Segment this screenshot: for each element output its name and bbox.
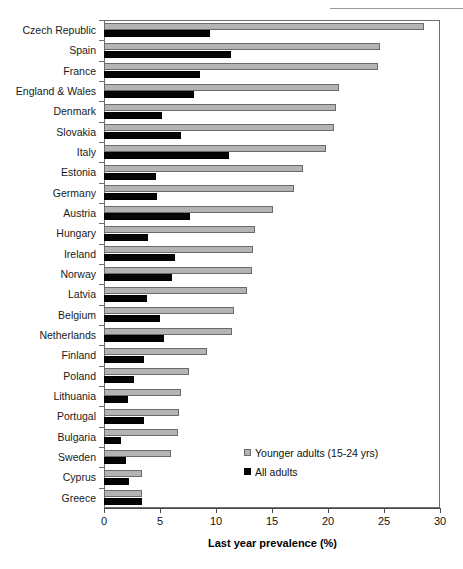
bar-all-adults (104, 234, 148, 241)
x-tick (216, 508, 217, 513)
bar-all-adults (104, 335, 164, 342)
legend-label-all-adults: All adults (255, 466, 298, 478)
bar-younger-adults (104, 429, 178, 436)
chart-page: Czech RepublicSpainFranceEngland & Wales… (0, 0, 463, 569)
bar-all-adults (104, 173, 156, 180)
x-tick-label: 20 (308, 515, 348, 527)
bar-all-adults (104, 254, 175, 261)
bar-all-adults (104, 193, 157, 200)
bar-younger-adults (104, 348, 207, 355)
bar-all-adults (104, 132, 181, 139)
bar-younger-adults (104, 63, 378, 70)
bar-row: Denmark (0, 101, 463, 121)
category-tick (99, 305, 104, 306)
bar-all-adults (104, 30, 210, 37)
category-tick (99, 325, 104, 326)
category-tick (99, 183, 104, 184)
bar-all-adults (104, 396, 128, 403)
bar-all-adults (104, 498, 142, 505)
category-tick (99, 447, 104, 448)
bar-row: France (0, 61, 463, 81)
x-tick-label: 15 (252, 515, 292, 527)
category-tick (99, 223, 104, 224)
bar-all-adults (104, 478, 129, 485)
category-label: Poland (63, 370, 96, 381)
bar-younger-adults (104, 185, 294, 192)
bar-all-adults (104, 91, 194, 98)
bar-row: Estonia (0, 162, 463, 182)
category-tick (99, 386, 104, 387)
bar-younger-adults (104, 226, 255, 233)
category-label: Norway (60, 269, 96, 280)
category-tick (99, 61, 104, 62)
category-label: Latvia (68, 289, 96, 300)
bar-all-adults (104, 376, 134, 383)
category-tick (99, 20, 104, 21)
category-label: Germany (53, 187, 96, 198)
bar-younger-adults (104, 328, 232, 335)
x-axis-title: Last year prevalence (%) (104, 537, 441, 549)
category-label: Greece (62, 492, 96, 503)
bar-all-adults (104, 71, 200, 78)
bar-row: Portugal (0, 406, 463, 426)
category-label: Bulgaria (57, 431, 96, 442)
category-label: Lithuania (53, 391, 96, 402)
bar-younger-adults (104, 470, 142, 477)
header-divider (330, 8, 463, 9)
bar-younger-adults (104, 409, 179, 416)
bar-all-adults (104, 356, 144, 363)
x-tick (160, 508, 161, 513)
bar-all-adults (104, 274, 172, 281)
category-tick (99, 122, 104, 123)
x-tick (104, 508, 105, 513)
category-label: Italy (77, 147, 96, 158)
category-tick (99, 244, 104, 245)
bar-row: Lithuania (0, 386, 463, 406)
bar-younger-adults (104, 124, 334, 131)
bar-row: Netherlands (0, 325, 463, 345)
category-tick (99, 81, 104, 82)
category-tick (99, 40, 104, 41)
header-note (382, 0, 463, 8)
category-label: Ireland (64, 248, 96, 259)
bar-all-adults (104, 295, 147, 302)
bar-row: Finland (0, 345, 463, 365)
bar-row: Latvia (0, 284, 463, 304)
category-label: Sweden (58, 452, 96, 463)
bar-younger-adults (104, 287, 247, 294)
x-tick-label: 10 (196, 515, 236, 527)
bar-younger-adults (104, 307, 234, 314)
legend-item-all-adults: All adults (244, 462, 434, 481)
bar-row: Ireland (0, 244, 463, 264)
category-tick (99, 142, 104, 143)
bar-row: Poland (0, 366, 463, 386)
category-tick (99, 366, 104, 367)
bar-row: Italy (0, 142, 463, 162)
bar-row: England & Wales (0, 81, 463, 101)
category-tick (99, 427, 104, 428)
legend-swatch-younger-adults-icon (244, 449, 251, 456)
category-tick (99, 203, 104, 204)
category-label: Hungary (56, 228, 96, 239)
bar-younger-adults (104, 43, 380, 50)
category-label: Spain (69, 45, 96, 56)
bar-all-adults (104, 51, 231, 58)
category-label: Denmark (53, 106, 96, 117)
category-label: Netherlands (39, 330, 96, 341)
category-label: France (63, 65, 96, 76)
bar-all-adults (104, 417, 144, 424)
bar-younger-adults (104, 206, 273, 213)
x-tick (440, 508, 441, 513)
category-tick (99, 345, 104, 346)
bar-all-adults (104, 112, 162, 119)
bar-all-adults (104, 457, 126, 464)
category-tick (99, 101, 104, 102)
legend-item-younger-adults: Younger adults (15-24 yrs) (244, 443, 434, 462)
x-tick (384, 508, 385, 513)
category-label: Austria (63, 208, 96, 219)
category-tick (99, 467, 104, 468)
bar-younger-adults (104, 450, 171, 457)
bar-all-adults (104, 213, 190, 220)
category-label: Slovakia (56, 126, 96, 137)
bar-younger-adults (104, 23, 424, 30)
